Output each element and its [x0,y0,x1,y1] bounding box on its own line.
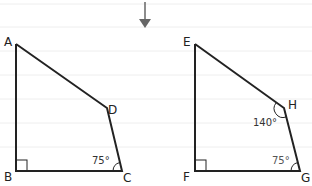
vertex-label-f: F [183,170,190,184]
angle-label-c: 75° [92,155,110,166]
right-angle-marker-b [16,160,27,171]
vertex-label-h: H [288,98,297,112]
angle-label-g: 75° [272,155,290,166]
vertex-label-e: E [183,35,191,49]
vertex-label-a: A [4,35,13,49]
right-angle-marker-f [195,160,206,171]
quadrilateral-efgh [195,44,300,171]
diagram-canvas: A D B C 75° E H F G 140° 75° [0,0,312,186]
angle-arc-g [291,163,298,172]
vertex-label-g: G [301,171,310,185]
quadrilateral-abcd [16,44,122,171]
vertex-label-b: B [4,170,12,184]
down-arrow-icon [139,2,151,28]
vertex-label-c: C [123,171,131,185]
angle-arc-c [113,163,120,172]
angle-label-h: 140° [253,117,277,128]
vertex-label-d: D [108,103,117,117]
